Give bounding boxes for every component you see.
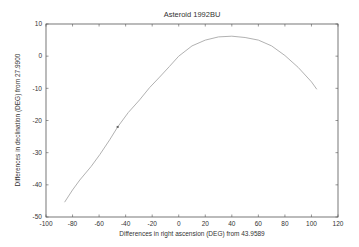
x-tick-label: 20 [202, 220, 210, 227]
y-tick-label: -50 [33, 213, 43, 220]
x-tick-label: -100 [39, 220, 52, 227]
chart-title: Asteroid 1992BU [164, 10, 221, 19]
y-tick-label: 10 [35, 20, 43, 27]
x-tick-label: 40 [228, 220, 236, 227]
y-tick-label: -20 [33, 117, 43, 124]
position-marker [117, 126, 119, 128]
x-tick-label: 60 [255, 220, 263, 227]
y-tick-label: -40 [33, 181, 43, 188]
x-tick-label: 80 [281, 220, 289, 227]
markers [117, 126, 119, 128]
x-tick-label: -60 [94, 220, 104, 227]
y-tick-label: -10 [33, 85, 43, 92]
y-tick-label: -30 [33, 149, 43, 156]
x-tick-label: -20 [147, 220, 157, 227]
trajectory-line [65, 36, 317, 202]
y-axis-label: Differences in declination (DEG) from 27… [14, 53, 22, 186]
x-tick-label: -40 [121, 220, 131, 227]
axis-ticks: -100-80-60-40-20020406080100120-50-40-30… [33, 20, 344, 227]
plot-frame [46, 24, 338, 217]
chart-container: Asteroid 1992BU -100-80-60-40-2002040608… [0, 0, 359, 247]
x-tick-label: 0 [177, 220, 181, 227]
x-tick-label: 120 [333, 220, 344, 227]
x-axis-label: Differences in right ascension (DEG) fro… [119, 230, 265, 238]
chart-svg: Asteroid 1992BU -100-80-60-40-2002040608… [0, 0, 359, 247]
x-tick-label: 100 [306, 220, 317, 227]
x-tick-label: -80 [68, 220, 78, 227]
y-tick-label: 0 [38, 52, 42, 59]
